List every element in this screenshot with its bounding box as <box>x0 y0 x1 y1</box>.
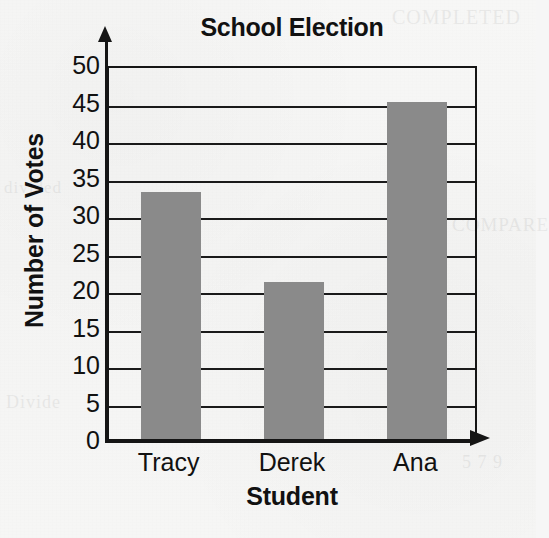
x-axis-tick-label: Tracy <box>99 447 239 477</box>
y-axis-tick-label: 25 <box>54 241 100 266</box>
bar-derek <box>264 282 324 440</box>
y-axis-tick-label: 0 <box>54 428 100 453</box>
y-axis-tick-label: 20 <box>54 278 100 303</box>
y-axis-tick-label: 15 <box>54 316 100 341</box>
y-axis-tick-label: 50 <box>54 53 100 78</box>
y-axis-arrow-icon <box>98 26 112 42</box>
plot-area <box>107 66 477 441</box>
y-axis-tick-label: 45 <box>54 91 100 116</box>
y-axis-tick-label: 30 <box>54 203 100 228</box>
y-axis-tick-label: 10 <box>54 353 100 378</box>
bar-ana <box>387 102 447 440</box>
y-axis-tick-label: 40 <box>54 128 100 153</box>
y-axis-tick-label: 5 <box>54 391 100 416</box>
y-axis-tick-labels: 50454035302520151050 <box>46 0 100 538</box>
x-axis-tick-label: Ana <box>345 447 485 477</box>
x-axis-title: Student <box>107 482 477 511</box>
y-axis-tick-label: 35 <box>54 166 100 191</box>
x-axis-tick-label: Derek <box>222 447 362 477</box>
y-axis-title: Number of Votes <box>20 111 49 351</box>
bar-tracy <box>141 192 201 440</box>
chart-title: School Election <box>107 12 477 42</box>
